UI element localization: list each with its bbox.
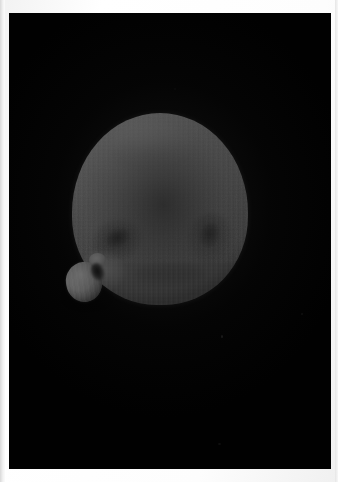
- dust-speck: [174, 88, 176, 90]
- photo-frame: [9, 13, 331, 469]
- dust-speck: [301, 313, 303, 315]
- photo-sheet: Grayscale telescopic photograph of a rou…: [0, 0, 338, 482]
- dust-speck: [221, 335, 223, 338]
- film-grain-texture: [72, 113, 248, 263]
- celestial-body-group: [9, 13, 331, 469]
- scan-edge-shadow: [0, 0, 5, 482]
- dust-speck: [218, 443, 221, 445]
